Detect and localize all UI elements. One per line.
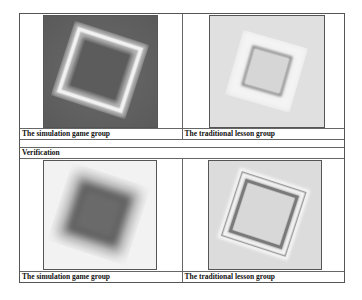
caption-row-bottom: The simulation game group The traditiona… [20,271,344,282]
cell-traditional-top [182,14,345,128]
rotated-square-dark-outline-figure [210,16,324,127]
caption-traditional-bottom: The traditional lesson group [182,272,345,282]
simulation-verification-image [43,160,157,270]
comparison-table: The simulation game group The traditiona… [19,13,345,283]
simulation-result-image [43,15,158,128]
empty-cell [20,140,344,147]
caption-row-top: The simulation game group The traditiona… [20,128,344,139]
caption-traditional-top: The traditional lesson group [182,129,345,139]
cell-simulation-top [20,14,182,128]
cell-simulation-bottom [20,159,182,271]
verification-header-row: Verification [20,147,344,158]
traditional-result-image [209,15,325,128]
rotated-square-blurred-fill-figure [44,161,156,269]
verification-label: Verification [20,148,344,158]
cell-traditional-bottom [182,159,345,271]
rotated-square-bright-outline-figure [44,16,157,127]
traditional-verification-image [208,160,322,270]
caption-simulation-bottom: The simulation game group [20,272,182,282]
caption-simulation-top: The simulation game group [20,129,182,139]
image-row-bottom [20,158,344,271]
spacer-row [20,139,344,147]
rotated-square-double-outline-figure [209,161,321,269]
image-row-top [20,14,344,128]
